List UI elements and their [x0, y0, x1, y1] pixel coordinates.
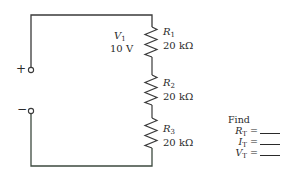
vt-answer-blank[interactable]	[260, 148, 280, 156]
r3-subscript: 3	[171, 128, 175, 136]
resistor-r3-symbol	[145, 118, 157, 148]
vt-subscript: T	[242, 152, 247, 160]
resistor-r2-symbol	[145, 75, 157, 105]
r2-symbol: R	[163, 77, 171, 88]
r3-symbol: R	[163, 123, 171, 134]
it-subscript: T	[242, 141, 247, 149]
rt-subscript: T	[242, 130, 247, 138]
find-item-total-voltage: VT =	[230, 148, 280, 159]
source-label: V1	[114, 31, 126, 42]
r1-subscript: 1	[171, 31, 175, 39]
find-panel: Find RT = IT = VT =	[228, 115, 280, 159]
wire-bottom	[31, 114, 152, 166]
positive-terminal-icon	[28, 67, 33, 72]
resistor-r2-value: 20 kΩ	[163, 92, 193, 102]
rt-answer-blank[interactable]	[260, 126, 280, 134]
source-value: 10 V	[110, 44, 133, 54]
resistor-r1-label: R1	[163, 27, 175, 38]
it-equals: =	[247, 136, 258, 147]
it-answer-blank[interactable]	[260, 137, 280, 145]
rt-equals: =	[247, 125, 258, 136]
r2-subscript: 2	[171, 82, 175, 90]
resistor-r1-value: 20 kΩ	[163, 41, 193, 51]
vt-equals: =	[247, 147, 258, 158]
resistor-r2-label: R2	[163, 78, 175, 89]
positive-sign: +	[16, 64, 26, 74]
resistor-r3-label: R3	[163, 124, 175, 135]
negative-sign: −	[17, 104, 27, 114]
resistor-r3-value: 20 kΩ	[163, 138, 193, 148]
find-title: Find	[228, 115, 280, 125]
r1-symbol: R	[163, 26, 171, 37]
resistor-r1-symbol	[145, 27, 157, 57]
wire-top	[31, 15, 152, 67]
negative-terminal-icon	[28, 108, 33, 113]
source-subscript: 1	[121, 35, 125, 43]
